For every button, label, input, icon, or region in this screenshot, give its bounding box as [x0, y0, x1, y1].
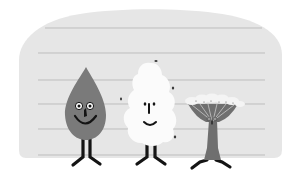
lineup-illustration [0, 0, 298, 186]
flower-legs [192, 160, 230, 168]
